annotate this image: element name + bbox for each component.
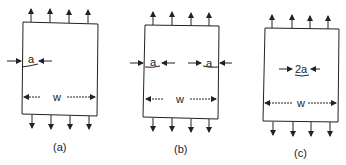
width-label: w: [175, 93, 184, 105]
width-label: w: [52, 91, 61, 103]
center-crack: [295, 75, 309, 76]
crack-geometry-diagram: a w (a) a a w (b): [0, 0, 346, 165]
panel-c: [263, 15, 339, 136]
crack-label: 2a: [295, 63, 308, 75]
panel-a: [7, 9, 98, 129]
crack-label-left: a: [150, 56, 157, 68]
panel-b: [130, 12, 232, 132]
caption-c: (c): [294, 147, 307, 159]
tension-arrows-top: [31, 9, 88, 23]
width-label: w: [296, 97, 305, 109]
crack-label: a: [28, 53, 35, 65]
crack-label-right: a: [206, 57, 213, 69]
caption-b: (b): [174, 143, 187, 155]
caption-a: (a): [53, 141, 66, 153]
tension-arrows-bottom: [32, 115, 89, 129]
